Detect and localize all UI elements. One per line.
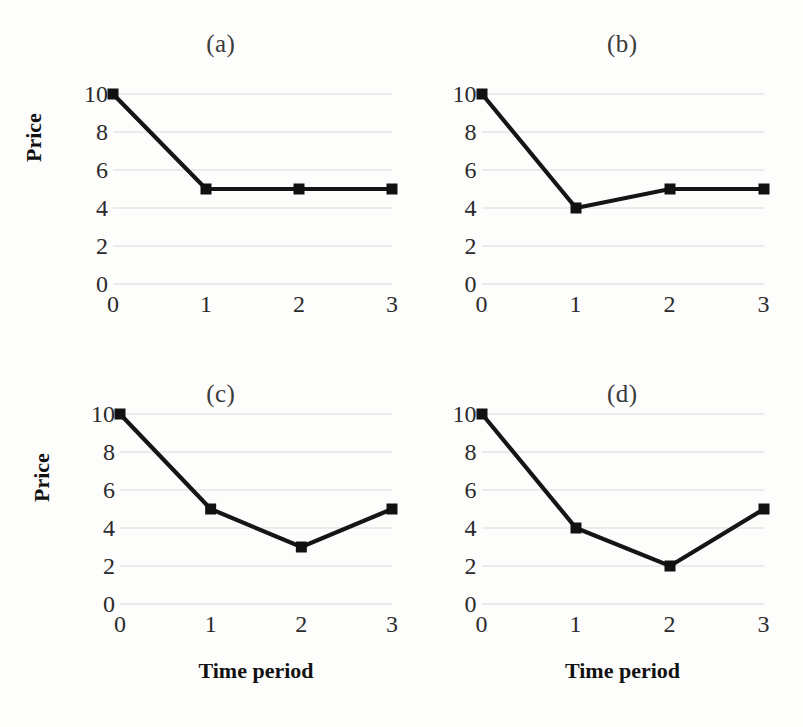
data-series-line — [482, 94, 764, 208]
data-point-marker — [664, 184, 675, 195]
y-tick-label: 6 — [66, 158, 108, 182]
data-point-marker — [387, 504, 398, 515]
y-tick-label: 0 — [435, 272, 477, 296]
data-series-line — [120, 414, 392, 547]
chart-panel-c: (c) Price 0246810 0123 Time period — [0, 350, 402, 727]
x-tick-label: 2 — [664, 612, 676, 636]
data-point-marker — [570, 203, 581, 214]
y-tick-label: 0 — [435, 592, 477, 616]
x-tick-label: 2 — [295, 612, 307, 636]
x-tick-label: 1 — [205, 612, 217, 636]
y-axis-label-a: Price — [21, 134, 47, 162]
y-axis-ticks-b: 0246810 — [435, 94, 477, 284]
y-tick-label: 4 — [73, 516, 115, 540]
y-tick-label: 6 — [435, 158, 477, 182]
chart-svg-d — [482, 414, 764, 604]
y-tick-label: 2 — [73, 554, 115, 578]
x-axis-ticks-a: 0123 — [113, 292, 392, 326]
x-tick-label: 1 — [570, 292, 582, 316]
chart-svg-a — [113, 94, 392, 284]
data-point-marker — [570, 523, 581, 534]
x-tick-label: 1 — [200, 292, 212, 316]
plot-area-c — [120, 414, 392, 604]
y-tick-label: 6 — [435, 478, 477, 502]
chart-svg-b — [482, 94, 764, 284]
y-tick-label: 4 — [435, 516, 477, 540]
x-axis-label-c: Time period — [198, 658, 313, 684]
x-tick-label: 3 — [758, 612, 770, 636]
y-tick-label: 10 — [435, 82, 477, 106]
y-tick-label: 0 — [73, 592, 115, 616]
y-tick-label: 10 — [66, 82, 108, 106]
plot-area-a — [113, 94, 392, 284]
plot-area-b — [482, 94, 764, 284]
x-axis-ticks-d: 0123 — [482, 612, 764, 646]
data-point-marker — [387, 184, 398, 195]
panel-title-b: (b) — [402, 30, 803, 58]
data-point-marker — [205, 504, 216, 515]
panel-title-a: (a) — [0, 30, 402, 58]
panel-title-c: (c) — [0, 380, 402, 408]
x-tick-label: 3 — [386, 292, 398, 316]
y-axis-label-c: Price — [29, 474, 55, 502]
y-axis-ticks-a: 0246810 — [66, 94, 108, 284]
x-tick-label: 2 — [664, 292, 676, 316]
data-point-marker — [758, 504, 769, 515]
y-tick-label: 8 — [435, 120, 477, 144]
y-tick-label: 8 — [435, 440, 477, 464]
x-tick-label: 0 — [476, 612, 488, 636]
x-axis-label-d: Time period — [565, 658, 680, 684]
x-tick-label: 0 — [476, 292, 488, 316]
data-point-marker — [294, 184, 305, 195]
x-tick-label: 2 — [293, 292, 305, 316]
x-tick-label: 1 — [570, 612, 582, 636]
y-axis-ticks-d: 0246810 — [435, 414, 477, 604]
x-tick-label: 0 — [107, 292, 119, 316]
data-point-marker — [664, 561, 675, 572]
y-tick-label: 8 — [73, 440, 115, 464]
data-point-marker — [476, 409, 487, 420]
chart-panel-b: (b) 0246810 0123 — [402, 0, 803, 350]
data-point-marker — [115, 409, 126, 420]
y-axis-ticks-c: 0246810 — [73, 414, 115, 604]
data-point-marker — [758, 184, 769, 195]
x-tick-label: 3 — [758, 292, 770, 316]
x-axis-ticks-c: 0123 — [120, 612, 392, 646]
chart-panel-d: (d) 0246810 0123 Time period — [402, 350, 803, 727]
figure-four-panel-price-charts: (a) Price 0246810 0123 (b) 0246810 0123 … — [0, 0, 803, 727]
data-point-marker — [108, 89, 119, 100]
chart-panel-a: (a) Price 0246810 0123 — [0, 0, 402, 350]
y-tick-label: 0 — [66, 272, 108, 296]
y-tick-label: 6 — [73, 478, 115, 502]
data-point-marker — [296, 542, 307, 553]
y-tick-label: 2 — [435, 234, 477, 258]
chart-svg-c — [120, 414, 392, 604]
y-tick-label: 2 — [66, 234, 108, 258]
y-tick-label: 8 — [66, 120, 108, 144]
panel-title-d: (d) — [402, 380, 803, 408]
data-point-marker — [476, 89, 487, 100]
x-axis-ticks-b: 0123 — [482, 292, 764, 326]
x-tick-label: 3 — [386, 612, 398, 636]
y-tick-label: 4 — [435, 196, 477, 220]
data-series-line — [113, 94, 392, 189]
data-point-marker — [201, 184, 212, 195]
y-tick-label: 2 — [435, 554, 477, 578]
plot-area-d — [482, 414, 764, 604]
y-tick-label: 4 — [66, 196, 108, 220]
x-tick-label: 0 — [114, 612, 126, 636]
